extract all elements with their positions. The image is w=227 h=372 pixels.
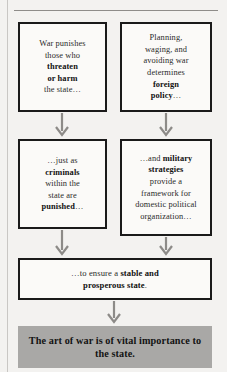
node-war-punishes: War punishesthose whothreatenor harmthe … (18, 22, 107, 112)
node-foreign-policy-text: Planning,waging, andavoiding wardetermin… (138, 32, 193, 102)
node-war-punishes-text: War punishesthose whothreatenor harmthe … (34, 38, 90, 96)
node-criminals-punished: …just ascriminalswithin thestate arepuni… (18, 139, 107, 229)
node-criminals-punished-text: …just ascriminalswithin thestate arepuni… (37, 155, 89, 213)
conclusion-banner: The art of war is of vital importance to… (18, 326, 212, 368)
diagram-page: War punishesthose whothreatenor harmthe … (0, 0, 227, 372)
node-military-strategies-text: …and militarystrategiesprovide aframewor… (130, 153, 202, 223)
node-foreign-policy: Planning,waging, andavoiding wardetermin… (120, 22, 212, 112)
node-military-strategies: …and militarystrategiesprovide aframewor… (120, 139, 212, 236)
node-stable-prosperous-state: …to ensure a stable andprosperous state. (18, 258, 212, 300)
conclusion-banner-text: The art of war is of vital importance to… (18, 334, 212, 360)
node-stable-prosperous-state-text: …to ensure a stable andprosperous state. (66, 267, 164, 292)
